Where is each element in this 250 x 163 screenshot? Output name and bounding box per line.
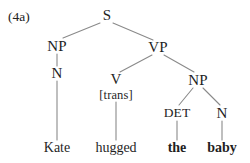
node-np-subject: NP bbox=[47, 39, 67, 54]
tree-edge-vp-to-v bbox=[120, 55, 152, 72]
leaf-word-kate: Kate bbox=[44, 141, 70, 155]
node-np-object: NP bbox=[188, 73, 208, 88]
node-s: S bbox=[103, 8, 112, 23]
node-n-object: N bbox=[216, 106, 227, 121]
tree-edge-np-object-to-n bbox=[203, 88, 220, 105]
leaf-word-hugged: hugged bbox=[95, 141, 136, 155]
node-v: V bbox=[110, 72, 121, 87]
tree-edge-vp-to-np-object bbox=[164, 55, 194, 72]
syntax-tree-figure: (4a) S NP VP N V [trans] NP DET N Kate h… bbox=[0, 0, 250, 163]
tree-edge-s-to-np-subject bbox=[63, 23, 100, 38]
tree-edges-layer bbox=[0, 0, 250, 163]
node-n-subject: N bbox=[51, 66, 62, 81]
node-det: DET bbox=[164, 106, 191, 120]
node-v-feature-trans: [trans] bbox=[99, 89, 132, 102]
leaf-word-baby: baby bbox=[207, 141, 237, 155]
node-vp: VP bbox=[148, 40, 168, 55]
tree-edge-s-to-vp bbox=[113, 23, 153, 40]
leaf-word-the: the bbox=[168, 141, 187, 155]
tree-edge-np-object-to-det bbox=[179, 88, 193, 105]
